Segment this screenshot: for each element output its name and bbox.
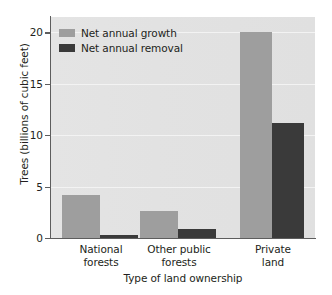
- category-label-line: Other public: [129, 243, 229, 256]
- bar-removal: [178, 229, 216, 238]
- legend-swatch-icon: [59, 44, 75, 52]
- legend-item[interactable]: Net annual removal: [59, 41, 183, 54]
- category-label-line: land: [223, 256, 323, 269]
- bar-chart-figure: Trees (billions of cubic feet) 05101520 …: [0, 0, 332, 295]
- gridline: [51, 84, 315, 85]
- x-axis-category-label: Other publicforests: [129, 243, 229, 268]
- legend-swatch-icon: [59, 29, 75, 37]
- x-axis-category-label: Privateland: [223, 243, 323, 268]
- y-tick-mark: [45, 187, 50, 188]
- bar-removal: [272, 123, 304, 238]
- bar-growth: [240, 32, 272, 238]
- y-axis-line: [50, 16, 51, 239]
- legend-label: Net annual removal: [81, 42, 183, 54]
- y-tick-mark: [45, 32, 50, 33]
- y-tick-label: 20: [3, 27, 43, 38]
- x-axis-title: Type of land ownership: [51, 272, 315, 284]
- chart-legend: Net annual growthNet annual removal: [59, 26, 183, 56]
- bar-growth: [140, 211, 178, 238]
- x-axis-line: [50, 238, 316, 239]
- y-tick-label: 10: [3, 130, 43, 141]
- y-tick-label: 15: [3, 79, 43, 90]
- bar-growth: [62, 195, 100, 238]
- y-tick-label: 5: [3, 182, 43, 193]
- legend-label: Net annual growth: [81, 27, 177, 39]
- category-label-line: forests: [129, 256, 229, 269]
- y-tick-label: 0: [3, 233, 43, 244]
- legend-item[interactable]: Net annual growth: [59, 26, 183, 39]
- y-tick-mark: [45, 238, 50, 239]
- y-tick-mark: [45, 84, 50, 85]
- category-label-line: Private: [223, 243, 323, 256]
- y-tick-mark: [45, 135, 50, 136]
